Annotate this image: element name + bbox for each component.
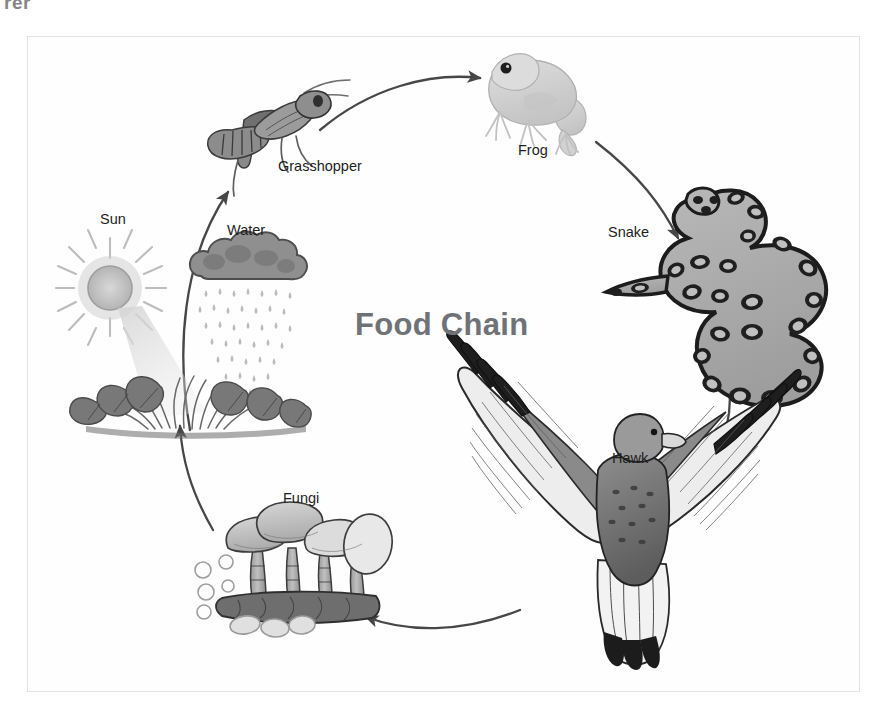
- rain-droplets: [199, 288, 292, 398]
- label-hawk: Hawk: [612, 451, 648, 466]
- label-fungi: Fungi: [283, 491, 319, 506]
- label-frog: Frog: [518, 143, 548, 158]
- arrow-fungi-to-plants: [180, 426, 213, 530]
- rain-cloud-icon: [190, 232, 307, 398]
- frog-icon: [486, 54, 586, 156]
- arrow-grasshopper-to-frog: [320, 77, 480, 130]
- label-grasshopper: Grasshopper: [278, 159, 362, 174]
- grasshopper-icon: [208, 80, 350, 196]
- label-sun: Sun: [100, 212, 126, 227]
- arrow-hawk-to-fungi: [366, 610, 520, 628]
- fungi-icon: [195, 502, 397, 638]
- label-water: Water: [227, 223, 265, 238]
- diagram-title: Food Chain: [355, 309, 528, 340]
- label-snake: Snake: [608, 225, 649, 240]
- diagram-canvas: [0, 0, 883, 720]
- food-chain-diagram-page: rer: [0, 0, 883, 720]
